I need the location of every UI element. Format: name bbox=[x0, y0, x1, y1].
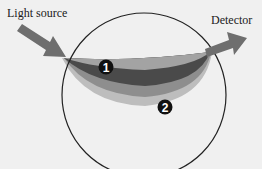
light-source-arrow-icon bbox=[17, 24, 66, 57]
photon-path-region bbox=[62, 52, 212, 106]
detector-arrow-icon bbox=[205, 32, 247, 57]
svg-text:1: 1 bbox=[103, 61, 110, 75]
marker-1: 1 bbox=[99, 60, 114, 75]
marker-2: 2 bbox=[158, 100, 173, 115]
detector-label: Detector bbox=[211, 13, 252, 28]
light-source-label: Light source bbox=[7, 6, 67, 21]
svg-text:2: 2 bbox=[162, 101, 169, 115]
diagram-canvas: 1 2 Light source Detector bbox=[0, 0, 262, 169]
